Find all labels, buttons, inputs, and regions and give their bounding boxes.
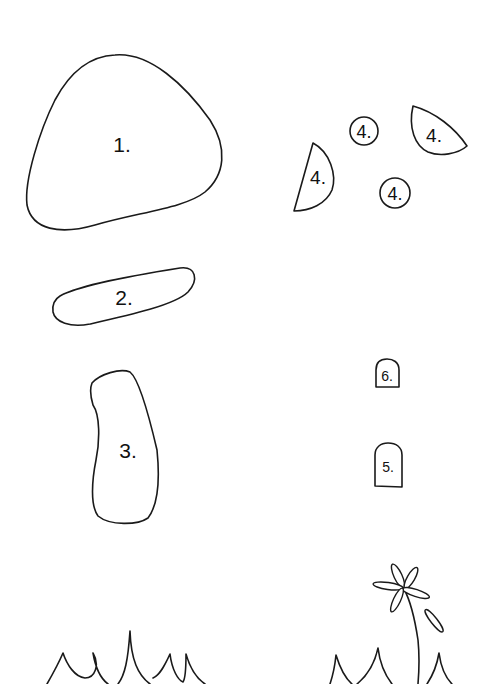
grass-blade xyxy=(357,648,392,684)
piece-4c[interactable]: 4. xyxy=(411,106,467,154)
piece-4c-label: 4. xyxy=(426,125,442,146)
piece-2[interactable]: 2. xyxy=(53,268,195,325)
piece-6[interactable]: 6. xyxy=(376,359,399,387)
flower-leaf xyxy=(423,608,445,634)
grass-blade xyxy=(427,653,452,684)
grass-blade xyxy=(47,653,108,684)
piece-4b[interactable]: 4. xyxy=(350,117,378,145)
piece-6-label: 6. xyxy=(381,368,393,384)
grass-right xyxy=(330,648,452,684)
grass-blade xyxy=(330,655,352,684)
piece-4a-label: 4. xyxy=(310,167,326,188)
piece-4d-label: 4. xyxy=(387,184,402,204)
piece-1-label: 1. xyxy=(113,133,131,156)
grass-blade xyxy=(118,631,150,684)
piece-5[interactable]: 5. xyxy=(375,443,402,487)
flower-petal xyxy=(402,585,431,601)
flower xyxy=(373,563,446,684)
piece-5-label: 5. xyxy=(382,459,394,475)
cutout-sheet: 1. 2. 3. 4. 4. 4. 4. 6. 5. xyxy=(0,0,494,684)
grass-left xyxy=(47,631,205,684)
piece-4b-label: 4. xyxy=(356,122,371,142)
piece-4a[interactable]: 4. xyxy=(294,143,334,211)
piece-2-label: 2. xyxy=(115,286,133,309)
piece-3-label: 3. xyxy=(119,439,137,462)
piece-3[interactable]: 3. xyxy=(91,371,159,524)
piece-4d[interactable]: 4. xyxy=(380,178,410,208)
flower-stem xyxy=(404,589,419,684)
grass-blade xyxy=(153,654,205,684)
flower-petal xyxy=(402,566,421,591)
piece-1[interactable]: 1. xyxy=(27,55,222,230)
